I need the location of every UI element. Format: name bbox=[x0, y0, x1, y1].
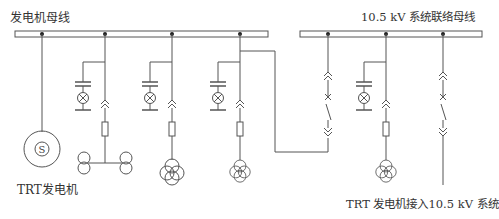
tie-line bbox=[240, 51, 328, 152]
feeder-328 bbox=[324, 34, 332, 136]
feeder-105 bbox=[75, 34, 132, 174]
generator-symbol: S bbox=[39, 144, 46, 155]
feeder-443 bbox=[439, 34, 447, 185]
feeder-172 bbox=[142, 34, 184, 185]
generator-bus bbox=[15, 31, 268, 37]
feeder-386 bbox=[356, 34, 396, 182]
feeder-240 bbox=[210, 34, 250, 182]
